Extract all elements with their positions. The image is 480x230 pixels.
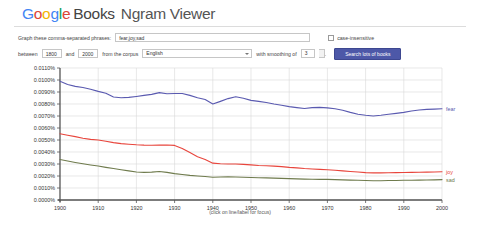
phrases-row: Graph these comma-separated phrases: fea… xyxy=(18,31,480,44)
chart-series-labels[interactable]: fearjoysad xyxy=(445,106,455,183)
svg-text:0.0060%: 0.0060% xyxy=(34,125,55,131)
logo-letter-e: e xyxy=(62,5,70,22)
svg-text:0.0040%: 0.0040% xyxy=(34,149,55,155)
svg-text:0.0070%: 0.0070% xyxy=(34,113,55,119)
start-year-input[interactable]: 1800 xyxy=(42,49,62,58)
logo-letter-g2: g xyxy=(50,5,58,22)
case-insensitive-control[interactable]: case-insensitive xyxy=(328,35,374,41)
svg-text:0.0090%: 0.0090% xyxy=(34,89,55,95)
svg-text:0.0050%: 0.0050% xyxy=(34,137,55,143)
smoothing-suffix: . xyxy=(325,51,326,57)
case-insensitive-label: case-insensitive xyxy=(337,35,374,41)
chevron-down-icon xyxy=(245,53,249,55)
logo-letter-o1: o xyxy=(34,5,42,22)
svg-text:0.0100%: 0.0100% xyxy=(34,77,55,83)
smoothing-select[interactable]: 3 xyxy=(301,49,315,58)
corpus-select[interactable]: English xyxy=(142,49,252,58)
product-name: Ngram Viewer xyxy=(121,5,215,22)
series-label-joy[interactable]: joy xyxy=(445,169,453,175)
page-header: GoogleBooksNgram Viewer xyxy=(0,0,480,22)
svg-text:0.0000%: 0.0000% xyxy=(34,197,55,203)
query-form: Graph these comma-separated phrases: fea… xyxy=(0,27,480,60)
series-label-sad[interactable]: sad xyxy=(446,177,455,183)
series-label-fear[interactable]: fear xyxy=(446,106,455,112)
end-year-input[interactable]: 2000 xyxy=(78,49,98,58)
app-title: GoogleBooksNgram Viewer xyxy=(22,6,480,22)
logo-letter-g1: G xyxy=(22,5,34,22)
phrases-input[interactable]: fear,joy,sad xyxy=(115,33,310,42)
corpus-label: from the corpus xyxy=(102,51,138,57)
smoothing-select-value: 3 xyxy=(305,49,308,58)
smoothing-label: with smoothing of xyxy=(256,51,296,57)
and-label: and xyxy=(66,51,75,57)
between-label: between xyxy=(18,51,38,57)
phrases-label: Graph these comma-separated phrases: xyxy=(18,35,111,41)
svg-text:0.0010%: 0.0010% xyxy=(34,185,55,191)
chart-caption: (click on line/label for focus) xyxy=(0,209,480,215)
google-logo: Google xyxy=(22,5,70,22)
chart-svg: 0.0000%0.0010%0.0020%0.0030%0.0040%0.005… xyxy=(0,58,480,230)
svg-text:0.0110%: 0.0110% xyxy=(34,65,55,71)
ngram-chart[interactable]: 0.0000%0.0010%0.0020%0.0030%0.0040%0.005… xyxy=(0,58,480,230)
corpus-select-value: English xyxy=(146,49,162,58)
chart-y-axis-labels: 0.0000%0.0010%0.0020%0.0030%0.0040%0.005… xyxy=(34,65,60,203)
case-insensitive-checkbox[interactable] xyxy=(328,35,334,41)
svg-text:0.0030%: 0.0030% xyxy=(34,161,55,167)
chart-axes xyxy=(58,68,442,202)
books-wordmark: Books xyxy=(73,5,115,22)
svg-text:0.0080%: 0.0080% xyxy=(34,101,55,107)
svg-text:0.0020%: 0.0020% xyxy=(34,173,55,179)
